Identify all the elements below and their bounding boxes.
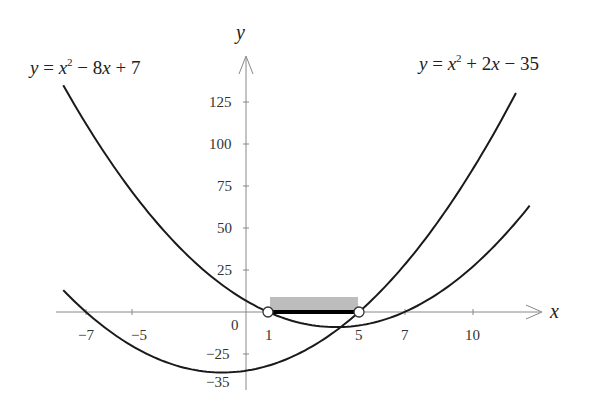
y-tick-label: 75: [217, 178, 232, 194]
y-tick-label: −25: [206, 346, 229, 362]
open-circle-x5: [354, 307, 364, 317]
open-circle-x1: [263, 307, 273, 317]
shaded-interval-band: [270, 297, 358, 310]
y-tick-label: 125: [209, 94, 232, 110]
x-tick-label: −5: [131, 327, 147, 343]
y-axis-label: y: [234, 21, 245, 44]
x-tick-label: 7: [401, 327, 409, 343]
equation-label-curve2: y = x2 + 2x − 35: [417, 52, 539, 74]
x-tick-label: 10: [465, 327, 480, 343]
y-tick-label: −35: [206, 374, 229, 390]
x-axis-label: x: [549, 300, 559, 322]
equation-label-curve1: y = x2 − 8x + 7: [28, 56, 140, 78]
chart-canvas: y x −7 −5 0 1 5 7 10 125 100 75 50 25 −2…: [0, 0, 599, 413]
x-tick-label: −7: [78, 327, 94, 343]
y-tick-label: 100: [209, 136, 232, 152]
curve-x2-minus-8x-plus-7: [63, 85, 529, 327]
origin-label: 0: [231, 317, 239, 333]
y-tick-label: 50: [217, 220, 232, 236]
x-tick-label: 5: [355, 327, 363, 343]
y-tick-label: 25: [217, 262, 232, 278]
x-tick-label: 1: [265, 327, 273, 343]
